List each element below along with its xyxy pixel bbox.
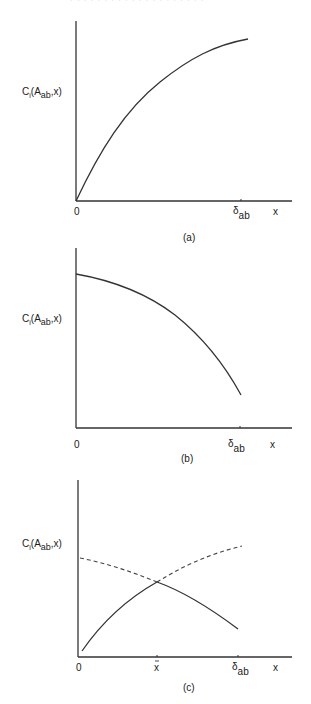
figure-canvas: Ci(Aab,x) 0 δab x (a) Ci(Aab,x) 0 δab x … <box>0 0 311 704</box>
curve-decreasing-dashed <box>80 558 157 582</box>
x-label: x <box>270 439 275 450</box>
curve-increasing-dashed <box>157 546 242 582</box>
curve-decreasing <box>76 274 241 395</box>
panel-b: Ci(Aab,x) 0 δab x (b) <box>22 248 292 464</box>
origin-label: 0 <box>74 206 80 217</box>
origin-label: 0 <box>76 662 82 673</box>
curve-increasing-solid <box>82 582 157 651</box>
panel-c: Ci(Aab,x) 0 x δab x (c) <box>22 480 292 693</box>
curve-increasing <box>76 39 248 201</box>
curve-decreasing-solid <box>157 582 238 629</box>
svg-text:x: x <box>154 662 159 673</box>
y-axis-label: Ci(Aab,x) <box>22 86 62 100</box>
caption: (a) <box>183 232 195 243</box>
x-label: x <box>273 662 278 673</box>
caption: (c) <box>183 682 195 693</box>
origin-label: 0 <box>74 439 80 450</box>
panel-a: Ci(Aab,x) 0 δab x (a) <box>22 21 292 243</box>
xbar-label: x <box>154 661 159 673</box>
x-label: x <box>273 206 278 217</box>
delta-label: δab <box>233 205 250 221</box>
y-axis-label: Ci(Aab,x) <box>22 313 62 327</box>
y-axis-label: Ci(Aab,x) <box>22 538 62 552</box>
caption: (b) <box>181 453 193 464</box>
delta-label: δab <box>232 661 249 677</box>
delta-label: δab <box>228 438 245 454</box>
